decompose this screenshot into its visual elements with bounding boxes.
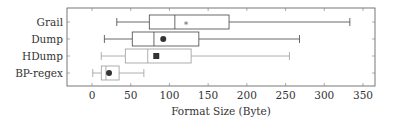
x-tick-label: 50 xyxy=(124,89,137,101)
mean-marker-circle xyxy=(106,70,112,76)
x-tick-label: 350 xyxy=(353,89,373,101)
x-tick-label: 0 xyxy=(89,89,96,101)
mean-marker-circle xyxy=(160,36,166,42)
x-tick-label: 150 xyxy=(198,89,218,101)
box-plot-chart: 050100150200250300350Format Size (Byte)G… xyxy=(0,0,394,125)
category-label: HDump xyxy=(22,50,63,62)
chart-canvas: 050100150200250300350Format Size (Byte)G… xyxy=(0,0,394,125)
x-tick-label: 100 xyxy=(159,89,179,101)
mean-marker-square xyxy=(153,53,159,59)
category-label: BP-regex xyxy=(15,67,63,79)
x-tick-label: 250 xyxy=(276,89,296,101)
x-axis-label: Format Size (Byte) xyxy=(171,105,271,117)
mean-marker-star: ∗ xyxy=(183,18,189,28)
iqr-box xyxy=(149,15,229,29)
x-tick-label: 300 xyxy=(314,89,334,101)
category-label: Grail xyxy=(37,16,64,28)
x-tick-label: 200 xyxy=(237,89,257,101)
category-label: Dump xyxy=(31,33,63,45)
